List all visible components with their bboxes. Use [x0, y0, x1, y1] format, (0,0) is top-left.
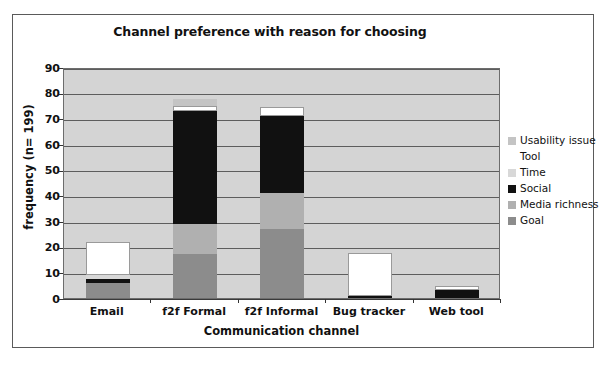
legend-label: Social	[520, 182, 551, 195]
x-axis-line	[63, 299, 500, 300]
y-axis-tick-labels: 0102030405060708090	[30, 68, 60, 299]
legend-item[interactable]: Media richness	[508, 198, 600, 212]
y-tick-mark	[59, 222, 63, 223]
x-tick-mark	[500, 299, 501, 303]
x-tick-label: Email	[63, 305, 150, 321]
x-tick-mark	[325, 299, 326, 303]
bar-group[interactable]	[64, 69, 151, 298]
x-axis-title: Communication channel	[63, 324, 500, 338]
bar-segment[interactable]	[348, 296, 392, 298]
bar-segment[interactable]	[173, 224, 217, 255]
bar-group[interactable]	[326, 69, 413, 298]
y-tick-label: 0	[34, 294, 60, 305]
bar-segment[interactable]	[86, 242, 130, 275]
x-tick-label: f2f Formal	[150, 305, 237, 321]
y-tick-label: 80	[34, 88, 60, 99]
bar-segment[interactable]	[260, 193, 304, 229]
bar-segment[interactable]	[173, 111, 217, 224]
legend-swatch	[508, 201, 516, 209]
y-tick-label: 40	[34, 191, 60, 202]
y-tick-mark	[59, 145, 63, 146]
bar-segment[interactable]	[86, 283, 130, 298]
legend-item[interactable]: Tool	[508, 150, 600, 164]
chart-title: Channel preference with reason for choos…	[40, 24, 500, 39]
x-tick-label: f2f Informal	[238, 305, 325, 321]
y-tick-label: 10	[34, 268, 60, 279]
legend-label: Usability issue	[520, 134, 596, 147]
bar-segment[interactable]	[435, 290, 479, 298]
legend-swatch	[508, 169, 516, 177]
legend-label: Time	[520, 166, 546, 179]
y-tick-label: 70	[34, 114, 60, 125]
y-tick-mark	[59, 196, 63, 197]
bar-segment[interactable]	[173, 106, 217, 111]
x-tick-mark	[150, 299, 151, 303]
x-tick-mark	[413, 299, 414, 303]
legend-swatch	[508, 137, 516, 145]
y-tick-label: 60	[34, 140, 60, 151]
x-tick-label: Bug tracker	[325, 305, 412, 321]
y-tick-label: 90	[34, 63, 60, 74]
legend-label: Media richness	[520, 198, 599, 211]
bar-group[interactable]	[151, 69, 238, 298]
y-tick-mark	[59, 248, 63, 249]
bar-series-container	[64, 69, 499, 298]
legend-item[interactable]: Usability issue	[508, 134, 600, 148]
legend-item[interactable]: Time	[508, 166, 600, 180]
bar-segment[interactable]	[86, 275, 130, 279]
y-tick-label: 50	[34, 165, 60, 176]
legend-label: Goal	[520, 214, 544, 227]
y-tick-label: 30	[34, 217, 60, 228]
bar-group[interactable]	[239, 69, 326, 298]
y-tick-mark	[59, 94, 63, 95]
y-tick-label: 20	[34, 242, 60, 253]
legend-item[interactable]: Goal	[508, 214, 600, 228]
bar-segment[interactable]	[260, 116, 304, 193]
x-axis-tick-labels: Emailf2f Formalf2f InformalBug trackerWe…	[63, 305, 500, 321]
y-tick-mark	[59, 171, 63, 172]
y-tick-mark	[59, 68, 63, 69]
bar-segment[interactable]	[260, 229, 304, 298]
bar-segment[interactable]	[435, 286, 479, 290]
bar-group[interactable]	[414, 69, 501, 298]
bar-segment[interactable]	[86, 279, 130, 283]
legend-swatch	[508, 185, 516, 193]
x-tick-mark	[238, 299, 239, 303]
chart-figure: Channel preference with reason for choos…	[0, 0, 608, 366]
legend-swatch	[508, 153, 516, 161]
legend-swatch	[508, 217, 516, 225]
y-tick-mark	[59, 299, 63, 300]
chart-legend: Usability issueToolTimeSocialMedia richn…	[508, 134, 600, 230]
bar-segment[interactable]	[173, 99, 217, 105]
x-tick-label: Web tool	[413, 305, 500, 321]
bar-segment[interactable]	[260, 107, 304, 116]
y-tick-mark	[59, 119, 63, 120]
y-tick-mark	[59, 273, 63, 274]
plot-area	[63, 68, 500, 299]
legend-label: Tool	[520, 150, 540, 163]
bar-segment[interactable]	[348, 253, 392, 296]
legend-item[interactable]: Social	[508, 182, 600, 196]
bar-segment[interactable]	[173, 254, 217, 298]
